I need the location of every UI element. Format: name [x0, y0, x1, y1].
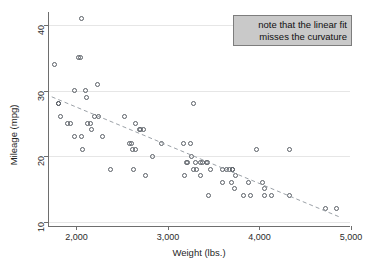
- x-axis-tick: [351, 226, 352, 230]
- data-point: [182, 173, 187, 178]
- data-point: [72, 134, 77, 139]
- data-point: [260, 180, 265, 185]
- data-point: [68, 121, 73, 126]
- data-point: [131, 167, 136, 172]
- data-point: [88, 121, 93, 126]
- x-axis-title: Weight (lbs.): [48, 247, 350, 258]
- data-point: [206, 193, 211, 198]
- data-point: [95, 82, 100, 87]
- data-point: [100, 134, 105, 139]
- data-point: [72, 88, 77, 93]
- data-point: [78, 55, 83, 60]
- data-point: [254, 147, 259, 152]
- data-point: [129, 141, 134, 146]
- data-point: [89, 127, 94, 132]
- data-point: [150, 154, 155, 159]
- data-point: [230, 167, 235, 172]
- y-axis-tick-label: 10: [36, 222, 46, 232]
- data-point: [108, 167, 113, 172]
- data-point: [233, 173, 238, 178]
- data-point: [194, 167, 199, 172]
- x-axis-tick: [76, 226, 77, 230]
- x-axis-tick-label: 4,000: [248, 232, 271, 242]
- data-point: [159, 141, 164, 146]
- data-point: [229, 180, 234, 185]
- y-axis-title: Mileage (mpg): [8, 105, 19, 166]
- data-point: [133, 147, 138, 152]
- y-axis-tick-label: 40: [36, 25, 46, 35]
- data-point: [323, 206, 328, 211]
- data-point: [241, 193, 246, 198]
- gridline: [49, 222, 350, 223]
- data-point: [248, 193, 253, 198]
- annotation-line-2: misses the curvature: [238, 31, 347, 43]
- data-point: [189, 154, 194, 159]
- data-point: [80, 147, 85, 152]
- data-point: [220, 180, 225, 185]
- data-point: [141, 127, 146, 132]
- data-point: [96, 114, 101, 119]
- y-axis-tick-label: 20: [36, 156, 46, 166]
- data-point: [143, 173, 148, 178]
- data-point: [287, 193, 292, 198]
- annotation-line-1: note that the linear fit: [238, 19, 347, 31]
- data-point: [191, 101, 196, 106]
- data-point: [198, 173, 203, 178]
- data-point: [58, 114, 63, 119]
- data-point: [246, 180, 251, 185]
- data-point: [133, 121, 138, 126]
- x-axis-tick-label: 3,000: [157, 232, 180, 242]
- data-point: [287, 147, 292, 152]
- x-axis-tick-label: 2,000: [65, 232, 88, 242]
- scatter-plot-figure: Mileage (mpg) 102030402,0003,0004,0005,0…: [0, 0, 366, 270]
- data-point: [79, 16, 84, 21]
- x-axis-tick-label: 5,000: [340, 232, 363, 242]
- annotation-box: note that the linear fit misses the curv…: [233, 15, 352, 46]
- data-point: [181, 141, 186, 146]
- data-point: [188, 141, 193, 146]
- data-point: [122, 114, 127, 119]
- data-point: [193, 160, 198, 165]
- data-point: [52, 62, 57, 67]
- data-point: [262, 193, 267, 198]
- gridline: [49, 156, 350, 157]
- data-point: [56, 101, 61, 106]
- y-axis-tick-label: 30: [36, 91, 46, 101]
- data-point: [208, 167, 213, 172]
- data-point: [262, 186, 267, 191]
- gridline: [49, 91, 350, 92]
- data-point: [84, 95, 89, 100]
- data-point: [334, 206, 339, 211]
- data-point: [269, 193, 274, 198]
- data-point: [232, 186, 237, 191]
- x-axis-tick: [259, 226, 260, 230]
- data-point: [83, 88, 88, 93]
- data-point: [205, 160, 210, 165]
- data-point: [185, 160, 190, 165]
- x-axis-tick: [168, 226, 169, 230]
- data-point: [79, 134, 84, 139]
